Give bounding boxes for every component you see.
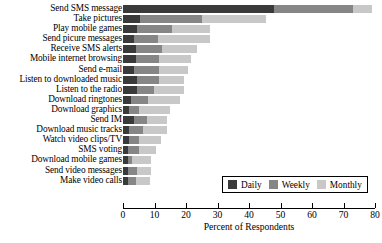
bar-segment-monthly (139, 106, 171, 114)
category-label: Download graphics (0, 104, 122, 115)
bar-segment-weekly (134, 66, 159, 74)
bar-segment-monthly (159, 66, 187, 74)
bar-segment-monthly (132, 156, 151, 164)
legend-swatch-icon (269, 180, 278, 189)
stacked-bar (123, 25, 210, 33)
bar-segment-weekly (129, 106, 138, 114)
x-tick (344, 203, 345, 208)
legend-label: Daily (241, 180, 262, 190)
stacked-bar (123, 126, 167, 134)
stacked-bar (123, 146, 156, 154)
x-tick (375, 203, 376, 208)
bar-segment-weekly (137, 86, 154, 94)
category-label: Take pictures (0, 13, 122, 24)
bar-segment-monthly (139, 146, 156, 154)
legend-item-monthly: Monthly (317, 180, 362, 190)
bar-segment-monthly (353, 5, 372, 13)
category-label: Send e-mail (0, 64, 122, 75)
bar-segment-weekly (128, 146, 139, 154)
stacked-bar (123, 76, 184, 84)
stacked-bar (123, 136, 161, 144)
bar-segment-monthly (139, 136, 161, 144)
category-label: Receive SMS alerts (0, 43, 122, 54)
x-axis-title: Percent of Respondents (123, 221, 375, 232)
legend-swatch-icon (317, 180, 326, 189)
bar-segment-weekly (140, 15, 201, 23)
bar-segment-weekly (136, 55, 160, 63)
bar-segment-daily (123, 25, 137, 33)
bar-segment-monthly (143, 126, 167, 134)
chart-rows: Send SMS messageTake picturesPlay mobile… (0, 4, 382, 186)
stacked-bar (123, 106, 170, 114)
bar-segment-monthly (202, 15, 267, 23)
stacked-bar (123, 15, 266, 23)
stacked-bar (123, 45, 197, 53)
category-label: Listen to the radio (0, 84, 122, 95)
stacked-bar (123, 116, 167, 124)
bar-segment-monthly (154, 86, 184, 94)
category-label: Send picure messages (0, 33, 122, 44)
x-tick (281, 203, 282, 208)
bar-segment-weekly (131, 96, 148, 104)
bar-segment-monthly (147, 116, 167, 124)
bar-segment-monthly (172, 25, 210, 33)
stacked-bar (123, 167, 151, 175)
category-label: Download mobile games (0, 154, 122, 165)
bar-segment-weekly (129, 126, 143, 134)
bar-segment-daily (123, 96, 131, 104)
bar-segment-monthly (159, 76, 184, 84)
legend-item-daily: Daily (228, 180, 262, 190)
bar-chart: Send SMS messageTake picturesPlay mobile… (0, 0, 382, 243)
bar-segment-weekly (134, 35, 158, 43)
bar-segment-daily (123, 116, 134, 124)
bar-segment-monthly (137, 167, 151, 175)
stacked-bar (123, 66, 188, 74)
legend-swatch-icon (228, 180, 237, 189)
category-label: Make video calls (0, 175, 122, 186)
bar-segment-daily (123, 15, 140, 23)
bar-segment-weekly (134, 116, 147, 124)
bar-segment-monthly (158, 35, 210, 43)
category-label: Send IM (0, 114, 122, 125)
legend-item-weekly: Weekly (269, 180, 310, 190)
category-label: Download music tracks (0, 124, 122, 135)
bar-segment-monthly (162, 45, 197, 53)
category-label: Send SMS message (0, 3, 122, 14)
category-label: Watch video clips/TV (0, 134, 122, 145)
bar-segment-monthly (159, 55, 191, 63)
stacked-bar (123, 86, 184, 94)
bar-segment-weekly (137, 25, 172, 33)
stacked-bar (123, 177, 150, 185)
category-label: Listen to downloaded music (0, 74, 122, 85)
x-tick (218, 203, 219, 208)
category-label: Download ringtones (0, 94, 122, 105)
category-label: SMS voting (0, 144, 122, 155)
x-tick-label: 80 (355, 209, 382, 220)
bar-segment-daily (123, 45, 136, 53)
x-tick (155, 203, 156, 208)
stacked-bar (123, 5, 372, 13)
category-label: Mobile internet browsing (0, 53, 122, 64)
category-label: Play mobile games (0, 23, 122, 34)
bar-segment-monthly (136, 177, 150, 185)
legend-label: Monthly (330, 180, 362, 190)
bar-segment-weekly (128, 167, 137, 175)
bar-segment-daily (123, 55, 136, 63)
chart-legend: DailyWeeklyMonthly (222, 176, 368, 193)
stacked-bar (123, 35, 210, 43)
bar-segment-daily (123, 66, 134, 74)
bar-segment-weekly (274, 5, 353, 13)
bar-segment-weekly (129, 136, 138, 144)
bar-segment-daily (123, 86, 137, 94)
stacked-bar (123, 96, 180, 104)
bar-segment-daily (123, 5, 274, 13)
bar-segment-daily (123, 76, 137, 84)
stacked-bar (123, 55, 191, 63)
x-tick (312, 203, 313, 208)
bar-segment-weekly (137, 76, 159, 84)
bar-segment-weekly (128, 177, 136, 185)
x-tick (249, 203, 250, 208)
bar-segment-daily (123, 35, 134, 43)
x-tick (123, 203, 124, 208)
stacked-bar (123, 156, 151, 164)
